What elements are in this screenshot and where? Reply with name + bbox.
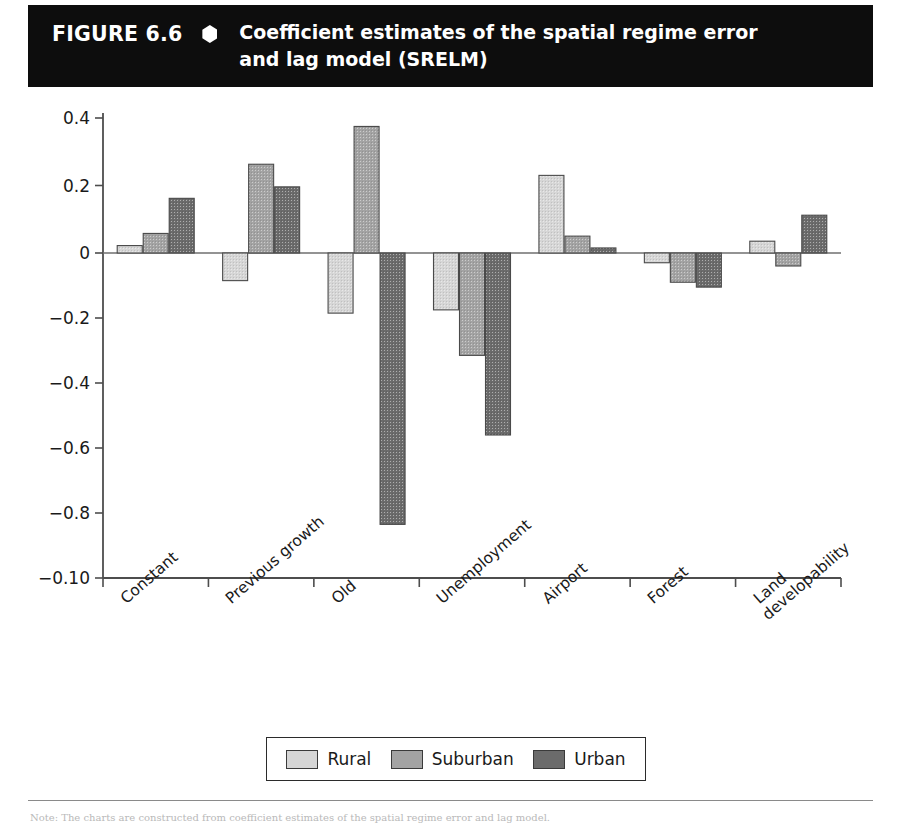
y-axis-tick-label: 0 bbox=[28, 243, 90, 263]
bar-urban-forest bbox=[696, 253, 721, 287]
y-axis-tick-label: −0.4 bbox=[28, 373, 90, 393]
bar-urban-old bbox=[380, 253, 405, 524]
figure-title-line-1: Coefficient estimates of the spatial reg… bbox=[239, 19, 757, 46]
figure-header-band: FIGURE 6.6 Coefficient estimates of the … bbox=[28, 5, 873, 87]
legend-label-suburban: Suburban bbox=[432, 749, 514, 769]
figure-title-line-2: and lag model (SRELM) bbox=[239, 46, 757, 73]
y-axis-tick-label: −0.8 bbox=[28, 503, 90, 523]
legend-swatch-suburban bbox=[391, 750, 423, 769]
bar-suburban-previous-growth bbox=[249, 164, 274, 253]
bar-chart-svg bbox=[0, 95, 901, 725]
bar-rural-land-developability bbox=[750, 241, 775, 253]
bar-urban-constant bbox=[169, 198, 194, 253]
footer-divider bbox=[28, 800, 873, 801]
bar-suburban-forest bbox=[670, 253, 695, 282]
legend-item-rural: Rural bbox=[286, 749, 371, 769]
legend-item-urban: Urban bbox=[533, 749, 625, 769]
bar-urban-airport bbox=[591, 248, 616, 253]
bar-urban-land-developability bbox=[802, 215, 827, 253]
y-axis-tick-label: −0.6 bbox=[28, 438, 90, 458]
hexagon-bullet-icon bbox=[202, 25, 217, 43]
y-axis-tick-label: −0.10 bbox=[28, 568, 90, 588]
y-axis-tick-label: −0.2 bbox=[28, 308, 90, 328]
bar-rural-airport bbox=[539, 175, 564, 253]
legend-swatch-rural bbox=[286, 750, 318, 769]
figure-number: FIGURE 6.6 bbox=[28, 5, 182, 46]
legend-label-urban: Urban bbox=[574, 749, 625, 769]
chart-plot-area: 0.40.20−0.2−0.4−0.6−0.8−0.10 ConstantPre… bbox=[0, 95, 901, 725]
bar-rural-old bbox=[328, 253, 353, 313]
legend-label-rural: Rural bbox=[327, 749, 371, 769]
legend-item-suburban: Suburban bbox=[391, 749, 514, 769]
y-axis-tick-label: 0.4 bbox=[28, 108, 90, 128]
bar-suburban-airport bbox=[565, 236, 590, 253]
footer-note: Note: The charts are constructed from co… bbox=[30, 812, 875, 824]
legend-swatch-urban bbox=[533, 750, 565, 769]
bar-suburban-old bbox=[354, 126, 379, 253]
bar-rural-forest bbox=[644, 253, 669, 263]
bar-rural-unemployment bbox=[434, 253, 459, 310]
bar-rural-previous-growth bbox=[223, 253, 248, 281]
bar-suburban-unemployment bbox=[460, 253, 485, 355]
bar-suburban-constant bbox=[143, 233, 168, 253]
bar-urban-unemployment bbox=[486, 253, 511, 435]
figure-title: Coefficient estimates of the spatial reg… bbox=[217, 5, 771, 73]
y-axis-tick-label: 0.2 bbox=[28, 176, 90, 196]
bar-suburban-land-developability bbox=[776, 253, 801, 266]
bar-urban-previous-growth bbox=[275, 187, 300, 253]
chart-legend: RuralSuburbanUrban bbox=[266, 737, 646, 781]
bar-rural-constant bbox=[117, 246, 142, 253]
